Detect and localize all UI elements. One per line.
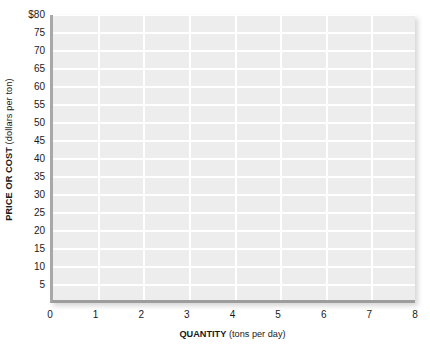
vertical-gridline xyxy=(189,15,191,300)
y-axis-tick-label: 65 xyxy=(15,64,45,74)
x-axis-tick-label: 1 xyxy=(76,310,116,320)
y-axis-title: PRICE OR COST (dollars per ton) xyxy=(0,0,18,300)
y-axis-tick-label: 50 xyxy=(15,118,45,128)
y-axis-tick-label: $80 xyxy=(15,10,45,20)
x-axis-title: QUANTITY (tons per day) xyxy=(50,330,415,339)
y-axis-tick-label: 30 xyxy=(15,190,45,200)
vertical-gridline xyxy=(98,15,100,300)
y-axis-tick-label: 35 xyxy=(15,172,45,182)
vertical-gridline xyxy=(326,15,328,300)
x-axis-title-unit: (tons per day) xyxy=(229,329,286,339)
y-axis-tick-label: 15 xyxy=(15,244,45,254)
y-axis-tick-label: 25 xyxy=(15,208,45,218)
vertical-gridline xyxy=(280,15,282,300)
x-axis-tick-label: 6 xyxy=(304,310,344,320)
y-axis-tick-label: 55 xyxy=(15,100,45,110)
y-axis-tick-label: 5 xyxy=(15,280,45,290)
y-axis-tick-labels: 51015202530354045505560657075$80 xyxy=(18,15,48,303)
plot-gridlines xyxy=(53,15,415,300)
y-axis-tick-label: 45 xyxy=(15,136,45,146)
y-axis-title-unit: (dollars per ton) xyxy=(3,79,13,145)
y-axis-tick-label: 10 xyxy=(15,262,45,272)
x-axis-tick-label: 5 xyxy=(258,310,298,320)
x-axis-tick-label: 2 xyxy=(121,310,161,320)
y-axis-tick-label: 60 xyxy=(15,82,45,92)
x-axis-title-bold: QUANTITY xyxy=(179,329,226,339)
plot-area xyxy=(50,15,415,303)
x-axis-tick-label: 0 xyxy=(30,310,70,320)
vertical-gridline xyxy=(235,15,237,300)
x-axis-tick-labels: 012345678 xyxy=(50,310,415,326)
y-axis-tick-label: 75 xyxy=(15,28,45,38)
vertical-gridline xyxy=(371,15,373,300)
x-axis-tick-label: 7 xyxy=(349,310,389,320)
y-axis-title-bold: PRICE OR COST xyxy=(3,147,13,221)
y-axis-tick-label: 20 xyxy=(15,226,45,236)
y-axis-tick-label: 40 xyxy=(15,154,45,164)
vertical-gridline xyxy=(143,15,145,300)
x-axis-tick-label: 8 xyxy=(395,310,430,320)
x-axis-tick-label: 3 xyxy=(167,310,207,320)
x-axis-tick-label: 4 xyxy=(213,310,253,320)
y-axis-tick-label: 70 xyxy=(15,46,45,56)
chart-figure: PRICE OR COST (dollars per ton) 51015202… xyxy=(0,0,430,354)
